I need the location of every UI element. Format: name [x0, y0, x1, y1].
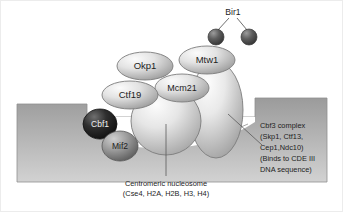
okp1-label: Okp1: [134, 60, 157, 71]
mif2-label: Mif2: [112, 141, 128, 151]
bir1-sphere-left: [208, 29, 224, 45]
cbf3-callout-line-5: DNA sequence): [260, 165, 312, 174]
nucleosome-callout-line-1: Centromeric nucleosome: [125, 179, 207, 188]
centromere-diagram: Bir1 Mtw1 Mcm21 Okp1 Ctf19 Cbf1 Mif2 Cen: [0, 0, 343, 212]
mtw1-label: Mtw1: [196, 54, 219, 65]
bir1-label: Bir1: [225, 7, 241, 17]
cbf1-label: Cbf1: [91, 119, 109, 129]
ctf19-label: Ctf19: [119, 89, 142, 100]
mcm21-label: Mcm21: [167, 83, 197, 93]
cbf3-callout-line-3: Cep1,Ndc10): [260, 143, 304, 152]
figure-canvas: Bir1 Mtw1 Mcm21 Okp1 Ctf19 Cbf1 Mif2 Cen: [0, 0, 343, 212]
cbf3-callout-line-1: Cbf3 complex: [260, 121, 305, 130]
cbf3-callout-line-4: (Binds to CDE III: [260, 154, 315, 163]
cbf3-callout-line-2: (Skp1, Ctf13,: [260, 132, 303, 141]
bir1-sphere-right: [241, 29, 257, 45]
nucleosome-callout-line-2: (Cse4, H2A, H2B, H3, H4): [123, 189, 209, 198]
